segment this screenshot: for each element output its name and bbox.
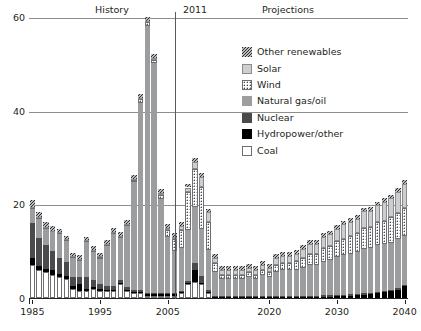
bar-segment-other-renewables bbox=[131, 175, 136, 179]
bar-segment-other-renewables bbox=[70, 253, 75, 257]
x-tick-label-1995: 1995 bbox=[80, 306, 120, 317]
bar-1988 bbox=[50, 226, 55, 298]
bar-segment-solar bbox=[327, 234, 332, 246]
bar-segment-other-renewables bbox=[334, 225, 339, 229]
bar-2002 bbox=[145, 17, 150, 298]
mid-gray-swatch bbox=[242, 96, 252, 106]
bar-segment-other-renewables bbox=[294, 250, 299, 254]
bar-segment-solar bbox=[341, 224, 346, 238]
bar-2011 bbox=[206, 209, 211, 298]
bar-1999 bbox=[124, 220, 129, 298]
bar-segment-hydropower-other bbox=[77, 284, 82, 291]
y-axis: 0204060 bbox=[0, 13, 25, 305]
bar-segment-hydropower-other bbox=[131, 292, 136, 293]
bar-segment-natural-gas-oil bbox=[179, 248, 184, 290]
bar-2035 bbox=[368, 207, 373, 298]
bar-segment-solar bbox=[273, 258, 278, 265]
bar-segment-wind bbox=[151, 60, 156, 64]
bar-segment-solar bbox=[314, 244, 319, 253]
bar-segment-wind bbox=[212, 263, 217, 272]
bar-segment-solar bbox=[206, 212, 211, 221]
bar-segment-natural-gas-oil bbox=[111, 234, 116, 286]
bar-segment-coal bbox=[70, 289, 75, 298]
bar-segment-nuclear bbox=[388, 290, 393, 291]
bar-segment-wind bbox=[267, 272, 272, 277]
bar-segment-solar bbox=[212, 258, 217, 263]
bar-segment-nuclear bbox=[307, 296, 312, 297]
legend-item-wind[interactable]: Wind bbox=[242, 77, 412, 93]
bar-segment-wind bbox=[300, 258, 305, 267]
bar-2025 bbox=[300, 245, 305, 298]
bar-segment-hydropower-other bbox=[111, 290, 116, 291]
legend-item-nuclear[interactable]: Nuclear bbox=[242, 110, 412, 126]
bar-1985 bbox=[30, 200, 35, 298]
bar-segment-solar bbox=[287, 256, 292, 263]
bar-segment-nuclear bbox=[260, 296, 265, 297]
bar-segment-hydropower-other bbox=[138, 292, 143, 293]
bar-segment-natural-gas-oil bbox=[334, 257, 339, 294]
bar-segment-nuclear bbox=[314, 296, 319, 297]
legend-item-other-renewables[interactable]: Other renewables bbox=[242, 44, 412, 60]
bar-segment-solar bbox=[233, 270, 238, 275]
bar-segment-solar bbox=[348, 222, 353, 236]
legend-item-coal[interactable]: Coal bbox=[242, 142, 412, 158]
bar-segment-nuclear bbox=[348, 294, 353, 295]
bar-2008 bbox=[185, 184, 190, 298]
bar-1997 bbox=[111, 228, 116, 298]
bar-segment-wind bbox=[382, 221, 387, 244]
bar-segment-natural-gas-oil bbox=[300, 268, 305, 296]
bar-1990 bbox=[64, 236, 69, 298]
bar-2003 bbox=[151, 54, 156, 298]
bar-segment-natural-gas-oil bbox=[206, 250, 211, 290]
bar-segment-natural-gas-oil bbox=[91, 252, 96, 280]
bar-segment-nuclear bbox=[70, 277, 75, 286]
y-tick-label-40: 40 bbox=[1, 106, 25, 117]
bar-2018 bbox=[253, 266, 258, 298]
bar-segment-natural-gas-oil bbox=[50, 232, 55, 251]
bar-1986 bbox=[36, 212, 41, 298]
bar-segment-coal bbox=[199, 284, 204, 298]
bar-segment-nuclear bbox=[97, 284, 102, 289]
bar-segment-hydropower-other bbox=[179, 292, 184, 293]
bar-segment-hydropower-other bbox=[151, 294, 156, 295]
legend-item-natural-gas-oil[interactable]: Natural gas/oil bbox=[242, 93, 412, 109]
bar-segment-nuclear bbox=[375, 292, 380, 293]
bar-segment-natural-gas-oil bbox=[395, 239, 400, 288]
bar-segment-other-renewables bbox=[287, 252, 292, 256]
legend-item-solar[interactable]: Solar bbox=[242, 60, 412, 76]
bar-segment-nuclear bbox=[300, 296, 305, 297]
bar-segment-hydropower-other bbox=[50, 270, 55, 275]
bar-segment-wind bbox=[260, 270, 265, 275]
black-swatch bbox=[242, 129, 252, 139]
bar-segment-other-renewables bbox=[300, 245, 305, 249]
bar-segment-nuclear bbox=[341, 295, 346, 296]
bar-segment-natural-gas-oil bbox=[165, 237, 170, 293]
bar-segment-nuclear bbox=[246, 296, 251, 297]
bar-segment-coal bbox=[91, 289, 96, 298]
bar-segment-natural-gas-oil bbox=[43, 229, 48, 245]
bar-2009 bbox=[192, 158, 197, 298]
light-gray-swatch bbox=[242, 64, 252, 74]
bar-segment-other-renewables bbox=[246, 264, 251, 268]
bar-segment-hydropower-other bbox=[158, 294, 163, 295]
bar-segment-hydropower-other bbox=[91, 287, 96, 289]
bar-segment-hydropower-other bbox=[192, 270, 197, 282]
x-tick-label-2020: 2020 bbox=[249, 306, 289, 317]
bar-segment-other-renewables bbox=[185, 184, 190, 188]
bar-segment-natural-gas-oil bbox=[287, 270, 292, 296]
bar-segment-solar bbox=[239, 270, 244, 275]
bar-segment-solar bbox=[226, 270, 231, 275]
bar-segment-natural-gas-oil bbox=[273, 272, 278, 295]
bar-segment-wind bbox=[273, 265, 278, 272]
white-swatch bbox=[242, 146, 252, 156]
bar-segment-wind bbox=[219, 275, 224, 280]
bar-2027 bbox=[314, 240, 319, 298]
bar-segment-other-renewables bbox=[368, 207, 373, 211]
bar-segment-wind bbox=[246, 272, 251, 277]
bar-segment-natural-gas-oil bbox=[368, 248, 373, 292]
bar-segment-solar bbox=[253, 270, 258, 275]
bar-segment-nuclear bbox=[294, 296, 299, 297]
bar-segment-nuclear bbox=[253, 296, 258, 297]
legend-item-hydropower-other[interactable]: Hydropower/other bbox=[242, 126, 412, 142]
bar-1991 bbox=[70, 253, 75, 298]
